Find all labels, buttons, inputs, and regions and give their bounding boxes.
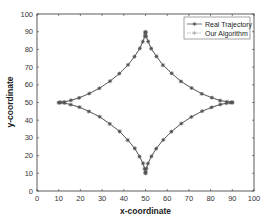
- x-tick-label: 40: [120, 194, 128, 203]
- x-axis-label: x-coordinate: [120, 206, 171, 216]
- x-tick-label: 60: [163, 194, 171, 203]
- x-tick-label: 90: [228, 194, 236, 203]
- x-tick-label: 100: [248, 194, 261, 203]
- asterisk-marker-icon: [193, 22, 197, 26]
- x-tick-label: 0: [35, 194, 39, 203]
- y-axis-label: y-coordinate: [5, 76, 15, 127]
- x-tick-label: 50: [141, 194, 149, 203]
- y-tick-label: 20: [25, 151, 33, 160]
- legend-label-our-algorithm: Our Algorithm: [205, 30, 248, 38]
- y-tick-label: 90: [25, 27, 33, 36]
- star-marker-icon: [193, 31, 197, 35]
- chart: 0102030405060708090100 01020304050607080…: [0, 0, 274, 223]
- x-tick-label: 10: [55, 194, 63, 203]
- x-tick-label: 80: [206, 194, 214, 203]
- y-tick-label: 40: [25, 116, 33, 125]
- y-tick-label: 80: [25, 45, 33, 54]
- legend-label-real-trajectory: Real Trajectory: [205, 21, 253, 29]
- y-tick-label: 30: [25, 133, 33, 142]
- y-tick-label: 60: [25, 80, 33, 89]
- x-tick-label: 70: [185, 194, 193, 203]
- y-tick-label: 50: [25, 98, 33, 107]
- y-tick-label: 70: [25, 63, 33, 72]
- y-tick-label: 0: [29, 187, 33, 196]
- legend: Real Trajectory Our Algorithm: [184, 17, 253, 39]
- y-tick-label: 100: [20, 10, 33, 19]
- x-tick-label: 30: [98, 194, 106, 203]
- y-tick-label: 10: [25, 169, 33, 178]
- x-tick-label: 20: [76, 194, 84, 203]
